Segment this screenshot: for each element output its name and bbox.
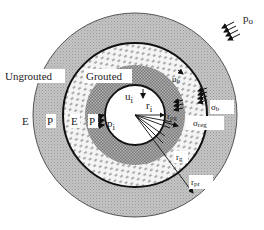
elastic-inner-label: E <box>71 115 78 127</box>
plastic-outer-label: P <box>47 115 53 127</box>
grouted-label: Grouted <box>86 70 123 82</box>
tunnel-diagram: Ungrouted Grouted E P E P po pi ui ub σb… <box>0 0 264 230</box>
elastic-outer-label: E <box>22 115 29 127</box>
plastic-inner-label: P <box>89 115 95 127</box>
po-label: po <box>243 12 254 26</box>
ungrouted-label: Ungrouted <box>5 70 53 82</box>
po-arrows <box>222 22 240 40</box>
